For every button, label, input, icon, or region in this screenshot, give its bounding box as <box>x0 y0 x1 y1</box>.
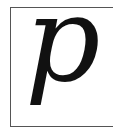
symbol-frame: p <box>10 7 113 127</box>
italic-p-symbol: p <box>25 0 101 98</box>
